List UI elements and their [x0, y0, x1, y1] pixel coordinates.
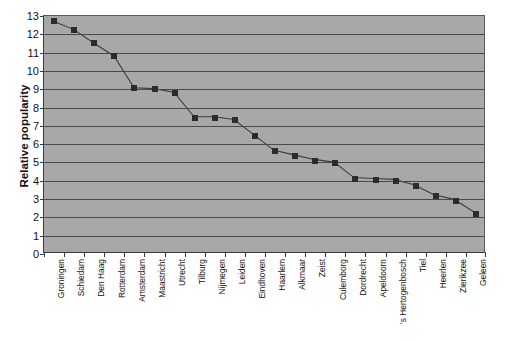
- y-tick-mark: [40, 126, 44, 127]
- y-tick-mark: [40, 16, 44, 17]
- x-tick-mark: [84, 252, 85, 257]
- y-tick-mark: [40, 199, 44, 200]
- y-tick-mark: [40, 144, 44, 145]
- x-tick-label: Haarlem: [278, 259, 287, 291]
- y-tick-label: 12: [27, 28, 39, 40]
- y-tick-label: 4: [33, 175, 39, 187]
- x-tick-label: 's Hertogenbosch: [399, 259, 408, 324]
- x-tick-mark: [406, 252, 407, 257]
- x-tick-mark: [365, 252, 366, 257]
- gridline: [44, 181, 484, 182]
- x-tick-mark: [165, 252, 166, 257]
- y-tick-label: 11: [28, 47, 39, 59]
- y-tick-label: 7: [33, 120, 39, 132]
- gridline: [44, 126, 484, 127]
- x-tick-mark: [44, 252, 45, 257]
- y-tick-label: 1: [33, 230, 39, 242]
- gridline: [44, 217, 484, 218]
- x-tick-label: Zierikzee: [459, 259, 468, 293]
- x-tick-mark: [245, 252, 246, 257]
- x-tick-label: Tiel: [419, 259, 428, 272]
- y-tick-mark: [40, 217, 44, 218]
- gridline: [44, 236, 484, 237]
- x-tick-mark: [345, 252, 346, 257]
- x-tick-label: Culemborg: [339, 259, 348, 300]
- data-point-marker: [413, 183, 419, 189]
- y-tick-mark: [40, 162, 44, 163]
- x-tick-label: Schiedam: [77, 259, 86, 296]
- data-point-marker: [71, 27, 77, 33]
- x-tick-label: Apeldoorn: [379, 259, 388, 297]
- chart-figure: Relative popularity 012345678910111213Gr…: [0, 0, 506, 341]
- y-tick-label: 13: [27, 10, 39, 22]
- y-tick-mark: [40, 89, 44, 90]
- x-tick-mark: [305, 252, 306, 257]
- y-tick-mark: [40, 34, 44, 35]
- gridline: [44, 162, 484, 163]
- x-tick-label: Den Haag: [97, 259, 106, 297]
- x-tick-mark: [104, 252, 105, 257]
- data-point-marker: [272, 148, 278, 154]
- gridline: [44, 199, 484, 200]
- x-tick-label: Heerlen: [439, 259, 448, 288]
- x-tick-mark: [386, 252, 387, 257]
- gridline: [44, 108, 484, 109]
- data-point-marker: [473, 211, 479, 217]
- gridline: [44, 71, 484, 72]
- y-tick-label: 6: [33, 138, 39, 150]
- y-tick-label: 3: [33, 193, 39, 205]
- data-point-marker: [373, 177, 379, 183]
- y-tick-label: 9: [33, 83, 39, 95]
- x-tick-mark: [225, 252, 226, 257]
- x-tick-mark: [64, 252, 65, 257]
- x-tick-label: Utrecht: [178, 259, 187, 286]
- x-tick-label: Maastricht: [158, 259, 167, 298]
- x-tick-mark: [426, 252, 427, 257]
- data-point-marker: [51, 18, 57, 24]
- data-point-marker: [453, 198, 459, 204]
- data-point-marker: [393, 178, 399, 184]
- x-tick-label: Amsterdam: [138, 259, 147, 302]
- data-point-marker: [152, 86, 158, 92]
- data-point-marker: [91, 40, 97, 46]
- x-tick-label: Rotterdam: [118, 259, 127, 298]
- x-tick-mark: [446, 252, 447, 257]
- x-tick-mark: [124, 252, 125, 257]
- x-tick-label: Zeist: [318, 259, 327, 277]
- y-tick-mark: [40, 108, 44, 109]
- x-tick-mark: [265, 252, 266, 257]
- x-tick-label: Geleen: [479, 259, 488, 286]
- gridline: [44, 34, 484, 35]
- x-tick-label: Dordrecht: [359, 259, 368, 296]
- data-point-marker: [352, 176, 358, 182]
- data-point-marker: [212, 115, 218, 121]
- data-point-marker: [332, 160, 338, 166]
- data-point-marker: [172, 90, 178, 96]
- data-point-marker: [111, 53, 117, 59]
- gridline: [44, 53, 484, 54]
- x-tick-label: Eindhoven: [258, 259, 267, 299]
- y-tick-mark: [40, 71, 44, 72]
- x-tick-mark: [466, 252, 467, 257]
- x-tick-label: Groningen: [57, 259, 66, 298]
- data-point-marker: [252, 133, 258, 139]
- gridline: [44, 89, 484, 90]
- x-tick-label: Tilburg: [198, 259, 207, 284]
- y-tick-mark: [40, 181, 44, 182]
- y-tick-label: 8: [33, 102, 39, 114]
- x-tick-mark: [485, 252, 486, 257]
- gridline: [44, 144, 484, 145]
- x-tick-mark: [144, 252, 145, 257]
- data-point-marker: [292, 153, 298, 159]
- y-tick-mark: [40, 236, 44, 237]
- x-tick-mark: [285, 252, 286, 257]
- x-tick-label: Nijmegen: [218, 259, 227, 294]
- plot-area: 012345678910111213GroningenSchiedamDen H…: [43, 15, 485, 253]
- x-tick-mark: [325, 252, 326, 257]
- y-tick-label: 5: [33, 156, 39, 168]
- x-tick-mark: [205, 252, 206, 257]
- data-point-marker: [312, 158, 318, 164]
- data-point-marker: [433, 193, 439, 199]
- x-tick-mark: [185, 252, 186, 257]
- y-tick-label: 2: [33, 211, 39, 223]
